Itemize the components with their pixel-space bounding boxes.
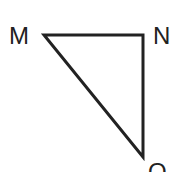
vertex-label-m: M: [9, 22, 29, 49]
vertex-label-n: N: [153, 22, 170, 49]
vertex-label-o: O: [148, 158, 167, 172]
triangle-diagram: M N O: [0, 0, 189, 172]
triangle-mno: [44, 35, 143, 157]
